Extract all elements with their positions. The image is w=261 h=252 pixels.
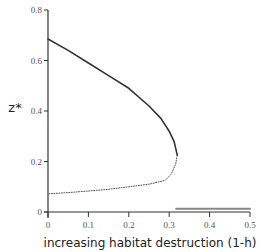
x-axis-title: increasing habitat destruction (1-h)	[44, 236, 257, 250]
y-tick-label: 0.4	[31, 106, 43, 116]
series-line-1	[48, 155, 177, 194]
x-tick-label: 0.1	[83, 220, 94, 230]
y-axis-title: z*	[8, 100, 22, 115]
x-tick-label: 0.4	[204, 220, 216, 230]
x-tick-label: 0.5	[244, 220, 256, 230]
y-tick-label: 0.2	[31, 157, 42, 167]
series-group	[48, 39, 250, 209]
x-tick-label: 0	[46, 220, 51, 230]
x-tick-label: 0.2	[123, 220, 134, 230]
y-tick-label: 0.6	[31, 56, 43, 66]
series-line-0	[48, 39, 177, 155]
bifurcation-chart: 00.20.40.60.800.10.20.30.40.5 z* increas…	[0, 0, 261, 252]
y-tick-label: 0.8	[31, 5, 43, 15]
x-tick-label: 0.3	[164, 220, 176, 230]
axes: 00.20.40.60.800.10.20.30.40.5	[31, 5, 256, 230]
y-tick-label: 0	[38, 207, 43, 217]
